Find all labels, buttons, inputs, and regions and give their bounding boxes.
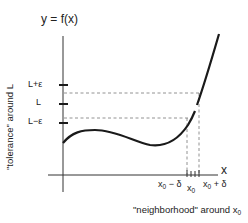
label-x0: x0 [187,183,195,194]
function-curve-right [197,34,219,105]
neighborhood-label: "neighborhood" around x0 [133,204,241,216]
label-l-plus-epsilon: L+ε [28,79,42,89]
tolerance-label: "tolerance" around L [4,84,15,170]
label-x0-plus-delta: x0 + δ [203,179,226,190]
label-l-minus-epsilon: L−ε [28,116,42,126]
function-label: y = f(x) [41,12,78,26]
x-axis-label: x [221,163,227,177]
label-x0-minus-delta: x0 − δ [158,179,181,190]
function-curve-left [63,111,195,145]
label-l: L [36,97,41,107]
